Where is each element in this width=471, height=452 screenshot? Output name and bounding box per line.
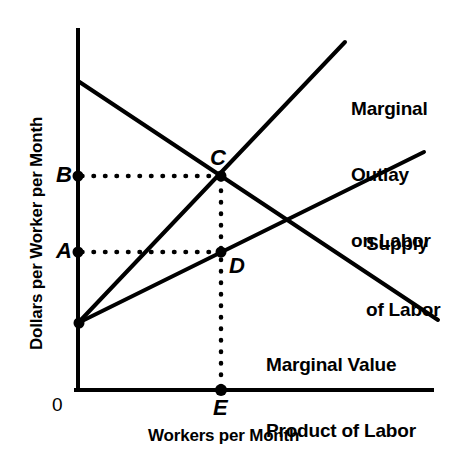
- economics-chart-figure: Dollars per Worker per Month Workers per…: [0, 0, 471, 452]
- curve-label-marginal-outlay-line2: Outlay: [351, 164, 431, 186]
- point-marker-a: [73, 247, 84, 258]
- point-marker-d: [216, 247, 227, 258]
- point-label-b: B: [56, 162, 72, 188]
- curve-label-supply-line1: Supply: [366, 233, 440, 255]
- origin-label: 0: [52, 394, 62, 416]
- y-axis-title: Dollars per Worker per Month: [27, 117, 47, 350]
- point-label-d: D: [229, 253, 245, 279]
- point-marker-curve-origin: [74, 318, 85, 329]
- marginal-outlay-curve: [78, 42, 345, 323]
- point-marker-b: [73, 171, 84, 182]
- point-marker-c: [216, 171, 227, 182]
- curve-label-mvp-line2: Product of Labor: [266, 420, 416, 442]
- curve-label-mvp-line1: Marginal Value: [266, 354, 416, 376]
- curve-label-marginal-outlay-line1: Marginal: [351, 98, 431, 120]
- curve-label-marginal-value-product: Marginal Value Product of Labor: [266, 310, 416, 452]
- point-label-e: E: [213, 395, 227, 421]
- point-label-a: A: [56, 238, 72, 264]
- point-label-c: C: [210, 145, 226, 171]
